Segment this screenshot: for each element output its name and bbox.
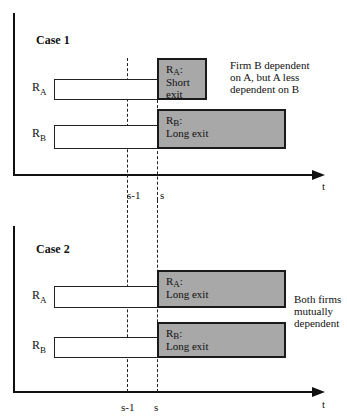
case2-t-label: t	[322, 398, 325, 410]
case2-ra-exit-box: RA: Long exit	[157, 270, 286, 308]
case1-tick-s-minus-1: s-1	[127, 189, 140, 201]
case1-ra-label: RA	[32, 80, 47, 95]
case1-arrow-icon	[312, 170, 325, 180]
case1-rb-exit-box: RB: Long exit	[157, 109, 286, 149]
case1-tick-s: s	[160, 189, 164, 201]
case1-ra-bar	[54, 79, 158, 100]
case2-arrow-icon	[312, 387, 325, 397]
case1-rb-label: RB	[32, 126, 46, 141]
case2-rb-label: RB	[32, 338, 46, 353]
case2-rb-exit-box: RB: Long exit	[157, 322, 286, 358]
case2-tick-s: s	[154, 401, 158, 413]
case1-x-axis	[13, 174, 315, 176]
case2-ra-label: RA	[32, 288, 47, 303]
case2-tick-s-minus-1: s-1	[121, 401, 134, 413]
case2-ra-bar	[54, 286, 158, 308]
case1-y-axis	[13, 13, 15, 175]
case2-note: Both firms mutually dependent	[294, 293, 341, 329]
case1-t-label: t	[322, 180, 325, 192]
case1-rb-bar	[54, 125, 158, 149]
case2-title: Case 2	[36, 242, 70, 257]
case2-rb-bar	[54, 337, 158, 358]
case2-y-axis	[13, 226, 15, 393]
case2-x-axis	[13, 391, 315, 393]
case1-ra-exit-box: RA: Short exit	[157, 58, 207, 100]
case1-title: Case 1	[36, 33, 70, 48]
case1-note: Firm B dependent on A, but A less depend…	[230, 59, 309, 95]
